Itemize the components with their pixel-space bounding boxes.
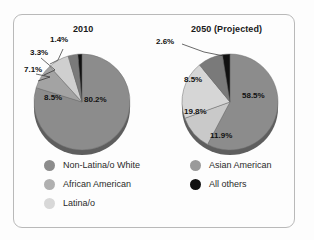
pie-chart-2010: 80.2%8.5%7.1%3.3%1.4% bbox=[22, 30, 142, 155]
slice-percent-label: 7.1% bbox=[24, 65, 42, 74]
slice-percent-label: 8.5% bbox=[44, 93, 62, 102]
slice-percent-label: 19.8% bbox=[184, 107, 207, 116]
legend-swatch-asian-american-icon bbox=[190, 160, 201, 171]
legend-item-asian-american[interactable]: Asian American bbox=[190, 156, 272, 175]
legend-item-all-others[interactable]: All others bbox=[190, 175, 272, 194]
slice-percent-label: 1.4% bbox=[50, 35, 68, 44]
legend-label-african-american: African American bbox=[63, 180, 131, 189]
legend-left-column: Non-Latina/o WhiteAfrican AmericanLatina… bbox=[44, 156, 140, 213]
figure-root: 2010 2050 (Projected) 80.2%8.5%7.1%3.3%1… bbox=[0, 0, 314, 240]
label-leader-line bbox=[182, 44, 224, 56]
slice-percent-label: 58.5% bbox=[242, 91, 265, 100]
legend-swatch-all-others-icon bbox=[190, 179, 201, 190]
slice-percent-label: 3.3% bbox=[30, 48, 48, 57]
pie-2050-leader-lines bbox=[182, 44, 224, 56]
legend-label-asian-american: Asian American bbox=[209, 161, 272, 170]
legend-label-non-latina-o-white: Non-Latina/o White bbox=[63, 161, 140, 170]
legend-item-non-latina-o-white[interactable]: Non-Latina/o White bbox=[44, 156, 140, 175]
legend-swatch-non-latina-o-white-icon bbox=[44, 160, 55, 171]
legend-swatch-african-american-icon bbox=[44, 179, 55, 190]
pie-chart-2050: 58.5%11.9%19.8%8.5%2.6% bbox=[152, 30, 282, 155]
slice-percent-label: 8.5% bbox=[184, 75, 202, 84]
legend-label-all-others: All others bbox=[209, 180, 247, 189]
slice-percent-label: 11.9% bbox=[210, 131, 232, 140]
legend-right-column: Asian AmericanAll others bbox=[190, 156, 272, 194]
legend-label-latina-o: Latina/o bbox=[63, 199, 95, 208]
slice-percent-label: 80.2% bbox=[84, 95, 107, 104]
legend-item-latina-o[interactable]: Latina/o bbox=[44, 194, 140, 213]
legend-swatch-latina-o-icon bbox=[44, 198, 55, 209]
legend-item-african-american[interactable]: African American bbox=[44, 175, 140, 194]
slice-percent-label: 2.6% bbox=[156, 37, 174, 46]
pie-2010-slices bbox=[34, 54, 130, 150]
